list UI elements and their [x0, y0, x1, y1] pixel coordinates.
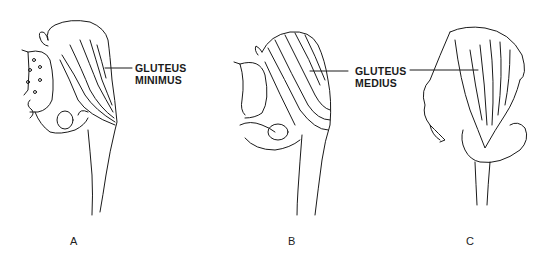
panel-a-drawing — [22, 21, 132, 215]
anatomy-drawing — [0, 0, 549, 261]
panel-b-drawing — [234, 32, 348, 215]
panel-label-c: C — [466, 235, 474, 247]
panel-label-a: A — [70, 235, 77, 247]
label-line2: MINIMUS — [135, 74, 187, 86]
label-line2: MEDIUS — [355, 77, 407, 89]
label-line1: GLUTEUS — [355, 65, 407, 77]
label-gluteus-medius: GLUTEUS MEDIUS — [355, 65, 407, 89]
panel-c-drawing — [410, 27, 527, 205]
panel-label-b: B — [288, 235, 295, 247]
label-line1: GLUTEUS — [135, 62, 187, 74]
label-gluteus-minimus: GLUTEUS MINIMUS — [135, 62, 187, 86]
